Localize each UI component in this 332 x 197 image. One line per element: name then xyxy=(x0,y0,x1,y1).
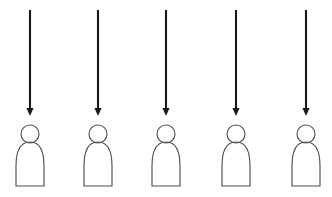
down-arrow xyxy=(162,10,169,116)
person-figure xyxy=(222,125,250,186)
person-body xyxy=(292,142,320,186)
column-3-group xyxy=(152,10,180,186)
person-figure xyxy=(16,125,44,186)
person-figure xyxy=(292,125,320,186)
person-head xyxy=(157,125,175,143)
person-figure xyxy=(152,125,180,186)
down-arrow xyxy=(232,10,239,116)
person-head xyxy=(297,125,315,143)
column-1-group xyxy=(16,10,44,186)
person-head xyxy=(227,125,245,143)
down-arrow xyxy=(26,10,33,116)
column-5-group xyxy=(292,10,320,186)
person-head xyxy=(89,125,107,143)
arrow-head-icon xyxy=(302,108,309,116)
arrow-head-icon xyxy=(232,108,239,116)
arrow-head-icon xyxy=(162,108,169,116)
down-arrow xyxy=(94,10,101,116)
arrow-head-icon xyxy=(94,108,101,116)
person-figure xyxy=(84,125,112,186)
column-2-group xyxy=(84,10,112,186)
person-body xyxy=(16,142,44,186)
arrow-head-icon xyxy=(26,108,33,116)
person-body xyxy=(222,142,250,186)
down-arrow xyxy=(302,10,309,116)
column-4-group xyxy=(222,10,250,186)
arrows-and-people-diagram xyxy=(0,0,332,197)
person-head xyxy=(21,125,39,143)
diagram-canvas xyxy=(0,0,332,197)
person-body xyxy=(152,142,180,186)
person-body xyxy=(84,142,112,186)
